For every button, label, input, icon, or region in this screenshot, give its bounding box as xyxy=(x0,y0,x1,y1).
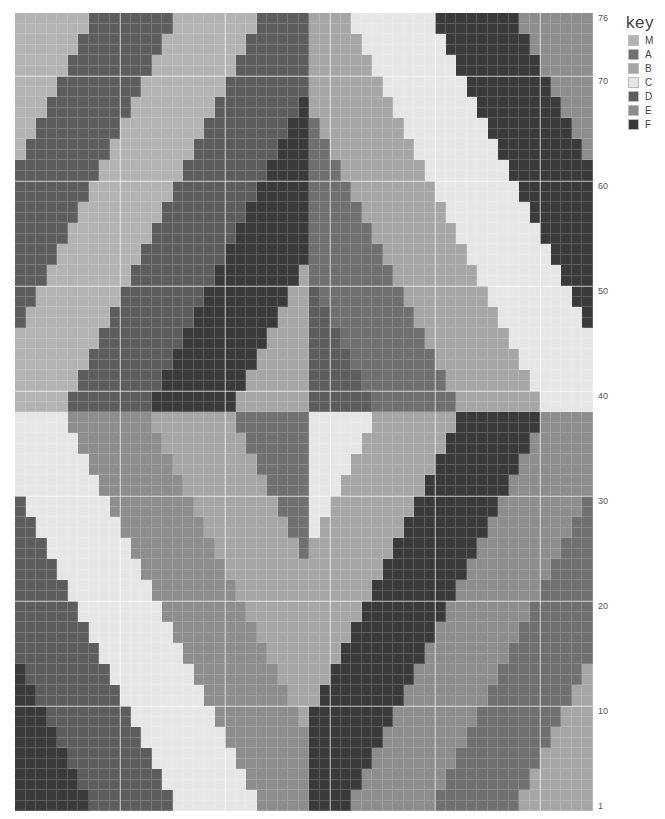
chart-cell xyxy=(299,423,310,434)
chart-cell xyxy=(372,213,383,224)
chart-cell xyxy=(488,339,499,350)
key-title: key xyxy=(626,14,654,32)
chart-cell xyxy=(320,538,331,549)
chart-cell xyxy=(162,297,173,308)
chart-cell xyxy=(278,591,289,602)
chart-cell xyxy=(330,622,341,633)
chart-cell xyxy=(309,696,320,707)
chart-cell xyxy=(26,244,37,255)
chart-cell xyxy=(309,612,320,623)
chart-cell xyxy=(498,706,509,717)
chart-cell xyxy=(372,738,383,749)
chart-cell xyxy=(341,717,352,728)
chart-cell xyxy=(89,465,100,476)
chart-cell xyxy=(530,223,541,234)
chart-cell xyxy=(78,664,89,675)
chart-cell xyxy=(509,465,520,476)
chart-cell xyxy=(551,601,562,612)
chart-cell xyxy=(246,685,257,696)
chart-cell xyxy=(341,748,352,759)
chart-cell xyxy=(173,549,184,560)
chart-cell xyxy=(456,265,467,276)
chart-cell xyxy=(446,507,457,518)
chart-cell xyxy=(467,402,478,413)
chart-cell xyxy=(572,622,583,633)
chart-cell xyxy=(509,423,520,434)
chart-cell xyxy=(236,528,247,539)
chart-cell xyxy=(393,181,404,192)
chart-cell xyxy=(362,423,373,434)
chart-cell xyxy=(299,265,310,276)
chart-cell xyxy=(288,129,299,140)
chart-cell xyxy=(498,391,509,402)
chart-cell xyxy=(246,402,257,413)
chart-cell xyxy=(152,297,163,308)
chart-cell xyxy=(498,654,509,665)
chart-cell xyxy=(309,769,320,780)
chart-cell xyxy=(162,160,173,171)
chart-cell xyxy=(330,76,341,87)
chart-cell xyxy=(57,801,68,812)
chart-cell xyxy=(89,507,100,518)
chart-cell xyxy=(110,675,121,686)
chart-cell xyxy=(498,160,509,171)
chart-cell xyxy=(341,486,352,497)
chart-cell xyxy=(425,181,436,192)
chart-cell xyxy=(488,370,499,381)
chart-cell xyxy=(414,528,425,539)
chart-cell xyxy=(572,643,583,654)
chart-cell xyxy=(509,360,520,371)
chart-cell xyxy=(257,318,268,329)
chart-cell xyxy=(372,55,383,66)
chart-cell xyxy=(26,496,37,507)
chart-cell xyxy=(446,780,457,791)
chart-cell xyxy=(351,727,362,738)
chart-cell xyxy=(519,517,530,528)
chart-cell xyxy=(89,423,100,434)
chart-cell xyxy=(68,675,79,686)
chart-cell xyxy=(456,475,467,486)
chart-cell xyxy=(131,612,142,623)
chart-cell xyxy=(498,496,509,507)
chart-cell xyxy=(372,433,383,444)
chart-cell xyxy=(288,759,299,770)
chart-cell xyxy=(89,528,100,539)
chart-cell xyxy=(57,360,68,371)
chart-cell xyxy=(225,234,236,245)
chart-cell xyxy=(141,496,152,507)
chart-cell xyxy=(267,790,278,801)
chart-cell xyxy=(183,171,194,182)
chart-cell xyxy=(435,633,446,644)
chart-cell xyxy=(467,286,478,297)
chart-cell xyxy=(582,181,593,192)
chart-cell xyxy=(372,402,383,413)
chart-cell xyxy=(278,465,289,476)
chart-cell xyxy=(288,286,299,297)
chart-cell xyxy=(131,34,142,45)
chart-cell xyxy=(372,234,383,245)
chart-cell xyxy=(530,685,541,696)
chart-cell xyxy=(561,370,572,381)
chart-cell xyxy=(47,97,58,108)
chart-cell xyxy=(267,45,278,56)
chart-cell xyxy=(467,34,478,45)
chart-cell xyxy=(15,202,26,213)
chart-cell xyxy=(183,286,194,297)
chart-cell xyxy=(47,454,58,465)
chart-cell xyxy=(183,507,194,518)
chart-cell xyxy=(131,108,142,119)
chart-cell xyxy=(15,559,26,570)
chart-cell xyxy=(582,118,593,129)
chart-cell xyxy=(36,139,47,150)
chart-cell xyxy=(540,234,551,245)
chart-cell xyxy=(120,706,131,717)
chart-cell xyxy=(215,213,226,224)
chart-cell xyxy=(26,601,37,612)
chart-cell xyxy=(393,318,404,329)
chart-cell xyxy=(404,612,415,623)
chart-cell xyxy=(519,66,530,77)
grid-line-horizontal xyxy=(15,706,593,707)
chart-cell xyxy=(320,727,331,738)
chart-cell xyxy=(131,517,142,528)
chart-cell xyxy=(309,45,320,56)
